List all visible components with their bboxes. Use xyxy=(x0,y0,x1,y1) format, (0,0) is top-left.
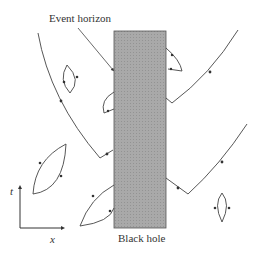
worldline-right-lower xyxy=(166,124,247,194)
horizon-loop-right-upper xyxy=(166,48,182,71)
x-axis-label: x xyxy=(50,233,55,245)
event-horizon-label: Event horizon xyxy=(49,12,111,24)
horizon-loop-left-lower xyxy=(80,185,114,226)
light-cone-loop-lower-left xyxy=(33,144,66,194)
light-cone-loop-upper-left xyxy=(63,65,75,93)
spacetime-diagram xyxy=(0,0,263,253)
worldline-left-infalling xyxy=(38,33,113,158)
horizon-loop-left xyxy=(103,92,114,113)
event-horizon-pointer xyxy=(78,28,113,70)
black-hole-region xyxy=(114,31,166,228)
t-axis-label: t xyxy=(10,185,13,197)
black-hole-label: Black hole xyxy=(118,232,165,244)
worldline-right-upper xyxy=(166,30,238,103)
light-cone-loop-right xyxy=(218,193,227,222)
